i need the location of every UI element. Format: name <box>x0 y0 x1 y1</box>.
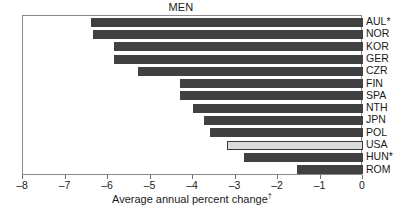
category-label-rom: ROM <box>366 163 391 175</box>
bar-hun <box>244 153 363 162</box>
category-label-hun: HUN* <box>366 150 393 162</box>
x-tick-label: –1 <box>305 179 335 191</box>
chart-title: MEN <box>0 1 362 13</box>
bar-fin <box>180 79 363 88</box>
x-tick-label: –7 <box>50 179 80 191</box>
chart-figure: MEN AUL*NORKORGERCZRFINSPANTHJPNPOLUSAHU… <box>0 0 401 214</box>
category-label-nth: NTH <box>366 101 388 113</box>
bar-rom <box>297 165 363 174</box>
category-label-jpn: JPN <box>366 113 386 125</box>
category-label-aul: AUL* <box>366 15 391 27</box>
x-tick-label: –8 <box>7 179 37 191</box>
x-tick-label: –3 <box>220 179 250 191</box>
x-tick-label: –2 <box>262 179 292 191</box>
category-label-pol: POL <box>366 126 387 138</box>
x-tick-label: –5 <box>135 179 165 191</box>
bar-row <box>23 65 361 77</box>
bar-jpn <box>204 116 363 125</box>
x-tick-label: –6 <box>92 179 122 191</box>
category-label-czr: CZR <box>366 64 388 76</box>
bar-row <box>23 127 361 139</box>
bar-row <box>23 114 361 126</box>
category-label-nor: NOR <box>366 27 389 39</box>
bar-row <box>23 151 361 163</box>
x-axis-footnote-marker: † <box>268 191 272 200</box>
bar-kor <box>114 42 363 51</box>
bar-spa <box>180 91 363 100</box>
bars-layer <box>23 16 361 174</box>
bar-ger <box>114 55 363 64</box>
bar-row <box>23 139 361 151</box>
bar-row <box>23 41 361 53</box>
bar-nth <box>193 104 363 113</box>
bar-row <box>23 28 361 40</box>
x-axis-title-text: Average annual percent change <box>112 193 268 205</box>
x-axis-title: Average annual percent change† <box>22 193 362 205</box>
category-axis-labels: AUL*NORKORGERCZRFINSPANTHJPNPOLUSAHUN*RO… <box>366 15 401 175</box>
bar-aul <box>91 18 363 27</box>
bar-nor <box>93 30 363 39</box>
bar-pol <box>210 128 363 137</box>
category-label-usa: USA <box>366 138 388 150</box>
plot-area <box>22 15 362 175</box>
bar-row <box>23 53 361 65</box>
category-label-fin: FIN <box>366 77 383 89</box>
bar-usa <box>227 141 363 150</box>
bar-czr <box>138 67 363 76</box>
bar-row <box>23 16 361 28</box>
x-tick-label: 0 <box>347 179 377 191</box>
bar-row <box>23 78 361 90</box>
category-label-kor: KOR <box>366 40 389 52</box>
category-label-ger: GER <box>366 52 389 64</box>
x-axis: –8–7–6–5–4–3–2–10 <box>22 175 362 195</box>
bar-row <box>23 90 361 102</box>
x-tick-label: –4 <box>177 179 207 191</box>
category-label-spa: SPA <box>366 89 386 101</box>
bar-row <box>23 102 361 114</box>
